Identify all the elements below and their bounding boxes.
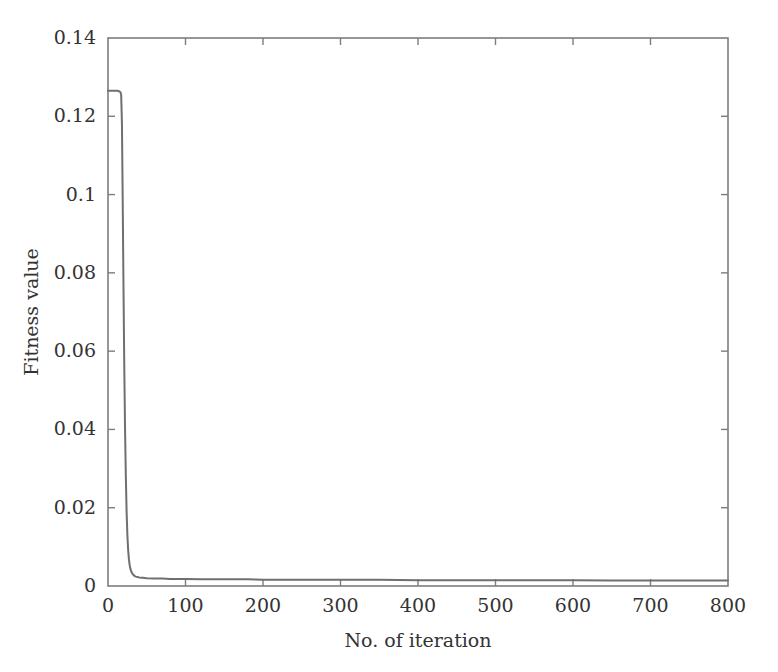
y-axis-tick-labels: 00.020.040.060.080.10.120.14 xyxy=(54,26,96,596)
x-axis-tick-labels: 0100200300400500600700800 xyxy=(102,594,746,616)
fitness-value-line xyxy=(108,91,728,581)
plot-axes: 0100200300400500600700800 00.020.040.060… xyxy=(54,26,746,616)
x-axis-title: No. of iteration xyxy=(344,629,491,651)
y-axis-tick-marks xyxy=(108,116,728,507)
x-tick-label: 700 xyxy=(632,594,668,616)
y-tick-label: 0.08 xyxy=(54,261,96,283)
y-tick-label: 0.14 xyxy=(54,26,96,48)
x-tick-label: 500 xyxy=(477,594,513,616)
y-tick-label: 0.06 xyxy=(54,339,96,361)
x-tick-label: 600 xyxy=(555,594,591,616)
x-axis-tick-marks xyxy=(186,38,651,586)
fitness-convergence-figure: 0100200300400500600700800 00.020.040.060… xyxy=(0,0,778,672)
y-tick-label: 0.12 xyxy=(54,104,96,126)
x-tick-label: 800 xyxy=(710,594,746,616)
plot-frame-border xyxy=(108,38,728,586)
x-tick-label: 400 xyxy=(400,594,436,616)
x-tick-label: 200 xyxy=(245,594,281,616)
x-tick-label: 100 xyxy=(167,594,203,616)
x-tick-label: 300 xyxy=(322,594,358,616)
y-tick-label: 0 xyxy=(84,574,96,596)
y-axis-title: Fitness value xyxy=(20,248,42,376)
x-tick-label: 0 xyxy=(102,594,114,616)
data-series-group xyxy=(108,91,728,581)
y-tick-label: 0.1 xyxy=(66,183,96,205)
y-tick-label: 0.02 xyxy=(54,496,96,518)
chart-canvas: 0100200300400500600700800 00.020.040.060… xyxy=(0,0,778,672)
y-tick-label: 0.04 xyxy=(54,417,96,439)
